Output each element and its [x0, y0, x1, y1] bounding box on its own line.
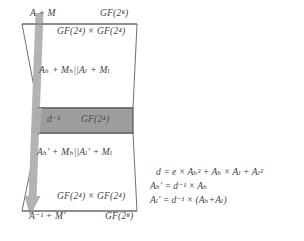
label-input-field: GF(2⁸) [100, 9, 128, 19]
label-output-field: GF(2⁸) [105, 212, 133, 222]
label-inverse-operator: d⁻¹ [47, 115, 60, 125]
equation-d: d = e × Aₕ² + Aₕ × Aₗ + Aₗ² [156, 167, 263, 177]
label-lower-split: Aₕ' + Mₕ||Aₗ' + Mₗ [37, 148, 112, 158]
label-upper-split: Aₕ + Mₕ||Aₗ + Mₗ [39, 66, 110, 76]
equation-al-prime: Aₗ' = d⁻¹ × (Aₕ+Aₗ) [150, 195, 227, 205]
label-input-value: A + M [30, 9, 56, 19]
label-output-value: A⁻¹ + M' [29, 212, 65, 222]
label-lower-composite-field: GF(2⁴) × GF(2⁴) [57, 192, 125, 202]
equation-ah-prime: Aₕ' = d⁻¹ × Aₕ [150, 181, 207, 191]
label-upper-composite-field: GF(2⁴) × GF(2⁴) [57, 27, 125, 37]
label-gf4-field: GF(2⁴) [81, 115, 109, 125]
